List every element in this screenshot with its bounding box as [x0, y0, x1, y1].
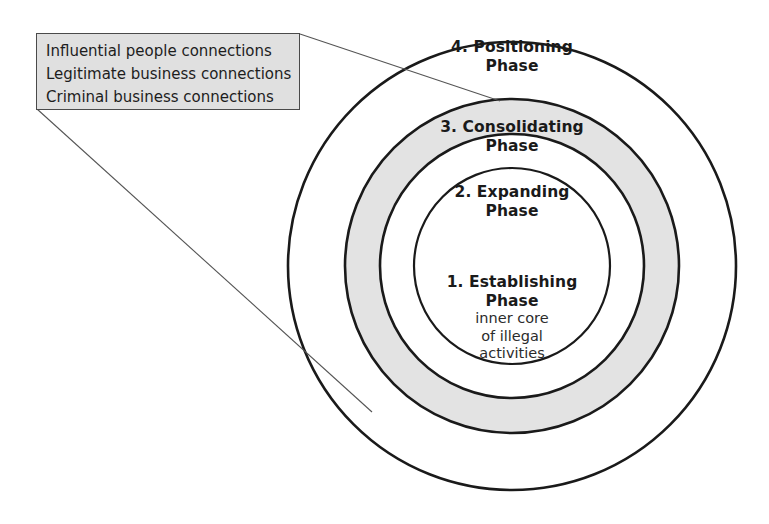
ring-label-expanding-phase: 2. Expanding Phase [412, 183, 612, 220]
ring-label-consolidating-number: 3. Consolidating [397, 118, 627, 137]
inner-core-line-1: inner core [402, 310, 622, 327]
ring-label-positioning-number: 4. Positioning [412, 38, 612, 57]
callout-line-legitimate: Legitimate business connections [46, 63, 299, 86]
callout-line-influential: Influential people connections [46, 40, 299, 63]
ring-label-establishing-phase-word: Phase [402, 292, 622, 311]
ring-label-establishing-phase: 1. Establishing Phase inner core of ille… [402, 273, 622, 362]
ring-label-expanding-phase-word: Phase [412, 202, 612, 221]
ring-label-consolidating-phase-word: Phase [397, 137, 627, 156]
diagram-canvas: 4. Positioning Phase 3. Consolidating Ph… [0, 0, 769, 524]
ring-label-consolidating-phase: 3. Consolidating Phase [397, 118, 627, 155]
ring-label-positioning-phase: 4. Positioning Phase [412, 38, 612, 75]
inner-core-line-3: activities [402, 345, 622, 362]
inner-core-line-2: of illegal [402, 328, 622, 345]
ring-label-expanding-number: 2. Expanding [412, 183, 612, 202]
ring-label-establishing-number: 1. Establishing [402, 273, 622, 292]
callout-line-criminal: Criminal business connections [46, 86, 299, 109]
ring-label-positioning-phase-word: Phase [412, 57, 612, 76]
connections-callout-box: Influential people connections Legitimat… [36, 33, 300, 110]
